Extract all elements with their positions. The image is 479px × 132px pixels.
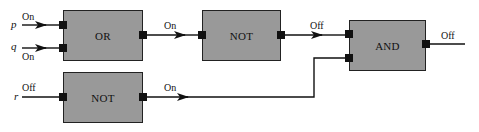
- and-gate-label: AND: [375, 40, 400, 52]
- input-name-q: q: [11, 41, 17, 51]
- input-name-r: r: [14, 91, 18, 101]
- state-label-or-output: On: [164, 21, 176, 31]
- not-gate-bottom-label: NOT: [91, 92, 115, 104]
- or-output-port: [139, 31, 147, 39]
- not-top-input-port: [198, 31, 206, 39]
- not-gate-bottom: NOT: [63, 72, 143, 123]
- or-gate-label: OR: [95, 30, 111, 42]
- input-name-p: p: [11, 19, 17, 29]
- not-bottom-output-port: [139, 93, 147, 101]
- and-input-port-2: [345, 54, 353, 62]
- not-top-output-port: [277, 31, 285, 39]
- not-gate-top-label: NOT: [230, 30, 254, 42]
- or-gate: OR: [63, 10, 143, 61]
- logic-circuit-diagram: OR NOT NOT AND p q r On On Off On Off On…: [0, 0, 479, 132]
- state-label-q: On: [22, 52, 34, 62]
- or-input-port-p: [59, 21, 67, 29]
- and-gate: AND: [349, 20, 426, 71]
- not-bottom-input-port: [59, 93, 67, 101]
- state-label-p: On: [22, 12, 34, 22]
- state-label-not-top-output: Off: [310, 21, 324, 31]
- state-label-and-output: Off: [441, 31, 455, 41]
- and-output-port: [422, 40, 430, 48]
- state-label-r: Off: [22, 83, 36, 93]
- not-gate-top: NOT: [202, 10, 281, 61]
- and-input-port-1: [345, 30, 353, 38]
- state-label-not-bottom-output: On: [164, 83, 176, 93]
- or-input-port-q: [59, 44, 67, 52]
